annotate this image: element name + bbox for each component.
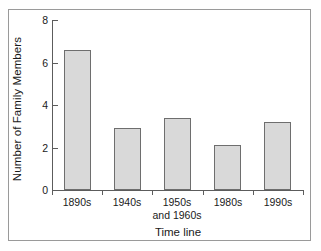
- x-tick-mark: [52, 191, 53, 195]
- x-tick-label: 1980s: [203, 196, 253, 208]
- x-tick-label: 1940s: [102, 196, 152, 208]
- y-tick-mark: [53, 148, 58, 149]
- x-tick-label: 1890s: [52, 196, 102, 208]
- bar: [164, 118, 191, 190]
- x-axis-title: Time line: [52, 226, 304, 238]
- y-tick-label: 2: [28, 143, 48, 153]
- y-tick-label-text: 4: [28, 100, 48, 110]
- y-tick-label-text: 8: [28, 15, 48, 25]
- y-tick-label: 4: [28, 100, 48, 110]
- y-tick-mark: [53, 63, 58, 64]
- x-tick-mark: [303, 191, 304, 195]
- x-tick-label: 1950s: [152, 196, 202, 208]
- x-axis-line: [52, 190, 304, 191]
- bar: [114, 128, 141, 190]
- x-tick-sublabel: and 1960s: [152, 209, 202, 221]
- x-tick-mark: [152, 191, 153, 195]
- x-tick-mark: [253, 191, 254, 195]
- y-axis-title: Number of Family Members: [11, 24, 23, 194]
- x-tick-mark: [203, 191, 204, 195]
- y-tick-mark: [53, 20, 58, 21]
- y-tick-label: 8: [28, 15, 48, 25]
- y-tick-label: 0: [28, 185, 48, 195]
- y-tick-label-text: 2: [28, 143, 48, 153]
- bar: [264, 122, 291, 190]
- y-tick-label-text: 0: [28, 185, 48, 195]
- x-tick-label: 1990s: [253, 196, 303, 208]
- x-tick-mark: [102, 191, 103, 195]
- bar: [64, 50, 91, 190]
- y-tick-label: 6: [28, 58, 48, 68]
- bar: [214, 145, 241, 190]
- y-tick-mark: [53, 190, 58, 191]
- chart-figure: Number of Family Members 02468 1890s1940…: [0, 0, 321, 251]
- y-tick-label-text: 6: [28, 58, 48, 68]
- y-tick-mark: [53, 105, 58, 106]
